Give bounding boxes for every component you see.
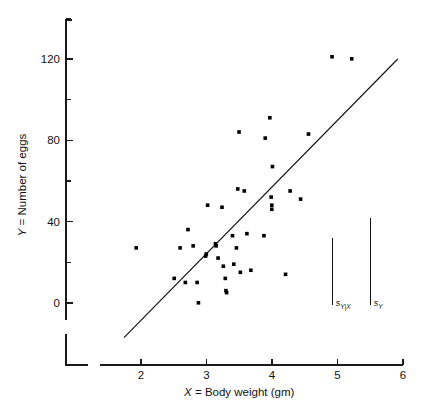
- reference-bar-label: sY|X: [336, 298, 352, 311]
- data-point: [186, 228, 190, 232]
- data-point: [242, 189, 246, 193]
- x-tick-label: 2: [138, 369, 144, 381]
- reference-bar-label: sY: [374, 298, 384, 310]
- data-point: [330, 55, 334, 59]
- data-point: [235, 246, 239, 250]
- y-axis-title: Y = Number of eggs: [16, 133, 28, 236]
- data-point: [232, 262, 236, 266]
- y-tick-label: 120: [41, 53, 60, 65]
- data-point: [288, 189, 292, 193]
- plot-element: Y|X: [340, 303, 351, 311]
- data-point: [299, 197, 303, 201]
- data-point: [172, 277, 176, 281]
- y-axis-break: [66, 334, 88, 365]
- data-point: [222, 264, 226, 268]
- data-point: [271, 165, 275, 169]
- plot-element: = Body weight (gm): [192, 386, 295, 398]
- data-point: [134, 246, 138, 250]
- data-point: [270, 207, 274, 211]
- data-point: [270, 203, 274, 207]
- x-axis-title: X = Body weight (gm): [183, 386, 294, 398]
- data-point: [269, 195, 273, 199]
- data-point: [205, 252, 209, 256]
- x-tick-label: 5: [334, 369, 340, 381]
- data-point: [206, 203, 210, 207]
- data-point: [249, 268, 253, 272]
- data-point: [245, 232, 249, 236]
- y-axis-spine: [66, 20, 72, 320]
- x-tick-label: 6: [400, 369, 406, 381]
- data-point: [350, 57, 354, 61]
- data-point: [191, 244, 195, 248]
- plot-canvas: 0408012023456X = Body weight (gm)Y = Num…: [0, 0, 427, 410]
- data-point: [225, 291, 229, 295]
- x-tick-label: 3: [203, 369, 209, 381]
- data-point: [263, 136, 267, 140]
- y-tick-label: 40: [47, 216, 60, 228]
- data-point: [239, 271, 243, 275]
- y-tick-label: 0: [54, 297, 60, 309]
- data-point: [223, 277, 227, 281]
- x-tick-label: 4: [269, 369, 276, 381]
- data-point: [262, 234, 266, 238]
- data-point: [268, 116, 272, 120]
- data-point: [195, 281, 199, 285]
- data-point: [307, 132, 311, 136]
- y-tick-label: 80: [47, 134, 60, 146]
- data-point: [220, 205, 224, 209]
- data-point: [184, 281, 188, 285]
- data-point: [178, 246, 182, 250]
- data-point: [284, 273, 288, 277]
- scatter-plot-figure: 0408012023456X = Body weight (gm)Y = Num…: [0, 0, 427, 410]
- plot-element: Y: [378, 303, 383, 310]
- data-point: [216, 256, 220, 260]
- data-point: [197, 301, 201, 305]
- regression-line: [124, 59, 398, 338]
- data-point: [237, 130, 241, 134]
- data-point: [231, 234, 235, 238]
- plot-element: = Number of eggs: [16, 133, 28, 228]
- data-point: [236, 187, 240, 191]
- data-point: [214, 244, 218, 248]
